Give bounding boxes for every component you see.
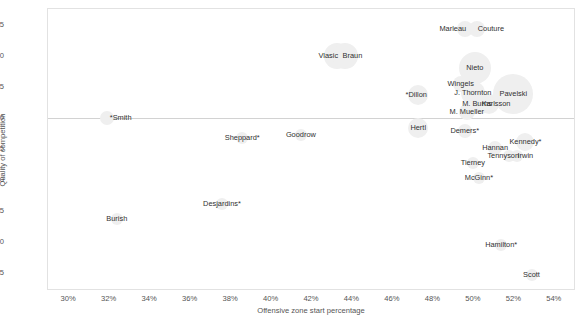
data-point-label: *Dillon bbox=[406, 91, 427, 98]
x-tick-label: 30% bbox=[61, 294, 76, 303]
y-tick-label: 1.0 bbox=[0, 50, 4, 59]
data-point-label: Burish bbox=[106, 215, 127, 222]
x-tick-label: 54% bbox=[546, 294, 561, 303]
y-tick-label: -1.0 bbox=[0, 175, 4, 184]
y-tick-label: -1.5 bbox=[0, 206, 4, 215]
data-point-label: Goodrow bbox=[286, 131, 316, 138]
data-point-label: Marleau bbox=[439, 25, 466, 32]
data-point-label: Irwin bbox=[518, 152, 534, 159]
data-point-label: *Smith bbox=[110, 114, 132, 121]
data-point-label: J. Thornton bbox=[454, 89, 491, 96]
data-point-label: Demers* bbox=[450, 127, 479, 134]
x-tick-label: 32% bbox=[101, 294, 116, 303]
x-tick-label: 34% bbox=[142, 294, 157, 303]
x-tick-label: 40% bbox=[263, 294, 278, 303]
data-point-label: Couture bbox=[478, 25, 504, 32]
x-tick-label: 44% bbox=[344, 294, 359, 303]
x-tick-label: 50% bbox=[465, 294, 480, 303]
data-point-label: Wingels bbox=[448, 80, 474, 87]
data-point-label: Sheppard* bbox=[225, 134, 260, 141]
scatter-chart: Quality of competition Offensive zone st… bbox=[0, 0, 582, 320]
data-point-label: Tennyson bbox=[487, 152, 519, 159]
y-tick-label: 1.5 bbox=[0, 19, 4, 28]
data-point-label: Pavelski bbox=[500, 90, 528, 97]
x-tick-label: 52% bbox=[506, 294, 521, 303]
data-point-label: Scott bbox=[523, 271, 540, 278]
plot-area: *SmithBurishSheppard*Desjardins*VlasicBr… bbox=[47, 8, 575, 290]
y-tick-label: -0.5 bbox=[0, 144, 4, 153]
y-tick-label: 0.0 bbox=[0, 112, 4, 121]
data-point-label: Vlasic bbox=[318, 52, 338, 59]
x-tick-label: 36% bbox=[182, 294, 197, 303]
y-tick-label: 0.5 bbox=[0, 81, 4, 90]
x-tick-label: 46% bbox=[384, 294, 399, 303]
data-point-label: Hertl bbox=[410, 124, 426, 131]
data-point-label: Nieto bbox=[466, 64, 483, 71]
y-tick-label: -2.0 bbox=[0, 237, 4, 246]
y-tick-label: -2.5 bbox=[0, 268, 4, 277]
x-tick-label: 42% bbox=[303, 294, 318, 303]
x-tick-label: 38% bbox=[222, 294, 237, 303]
data-point-label: Braun bbox=[343, 52, 363, 59]
data-point-label: Tierney bbox=[461, 159, 485, 166]
data-point-label: Karlsson bbox=[482, 100, 511, 107]
x-axis-label: Offensive zone start percentage bbox=[257, 306, 365, 315]
data-point-label: Kennedy* bbox=[509, 138, 541, 145]
data-point-label: M. Mueller bbox=[450, 108, 485, 115]
data-point-label: Desjardins* bbox=[203, 200, 241, 207]
x-tick-label: 48% bbox=[425, 294, 440, 303]
data-point-label: McGinn* bbox=[465, 174, 493, 181]
data-point-label: Hamilton* bbox=[485, 241, 517, 248]
data-point-label: Hannan bbox=[482, 144, 508, 151]
